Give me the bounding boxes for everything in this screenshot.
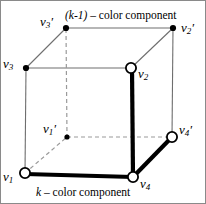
edge-v4-v4prime-thick bbox=[133, 137, 172, 177]
caption-k-minus-1-color-component: (k-1) – color component bbox=[65, 10, 176, 22]
vertex-label-v2-prime: v2′ bbox=[181, 21, 194, 36]
vertex-marker-v1 bbox=[20, 168, 30, 178]
vertex-marker-v1prime bbox=[64, 134, 69, 139]
vertex-label-v3: v3 bbox=[3, 57, 13, 72]
vertex-marker-v3prime bbox=[63, 25, 69, 31]
edge-v3-v1 bbox=[25, 68, 26, 173]
edge-v1-v4-thick bbox=[25, 174, 133, 177]
edge-v1-v1prime-dashed bbox=[25, 137, 67, 173]
vertex-label-v1-prime: v1′ bbox=[43, 122, 56, 137]
edge-v2-v4-thick bbox=[132, 68, 133, 177]
edge-v2prime-v2 bbox=[131, 28, 173, 68]
edge-v3-v3prime bbox=[26, 28, 66, 68]
vertex-label-v4: v4 bbox=[140, 177, 150, 192]
vertex-label-v4-prime: v4′ bbox=[179, 123, 192, 138]
vertex-label-v2: v2 bbox=[138, 67, 148, 82]
vertex-marker-v2 bbox=[126, 63, 136, 73]
caption-k-color-component: k – color component bbox=[36, 187, 130, 199]
edge-v2prime-v4prime bbox=[172, 28, 173, 137]
edge-v3prime-v1prime-dashed bbox=[66, 29, 67, 137]
vertex-marker-v4 bbox=[128, 172, 138, 182]
cube-figure: v3′ v2′ v3 v2 v1′ v4′ v1 v4 (k-1) – colo… bbox=[0, 0, 206, 204]
vertex-marker-v3 bbox=[23, 65, 29, 71]
vertex-label-v3-prime: v3′ bbox=[40, 15, 53, 30]
vertex-marker-v4prime bbox=[167, 132, 177, 142]
cube-graph-svg bbox=[1, 1, 206, 204]
vertex-label-v1: v1 bbox=[3, 170, 13, 185]
vertex-marker-v2prime bbox=[170, 25, 176, 31]
